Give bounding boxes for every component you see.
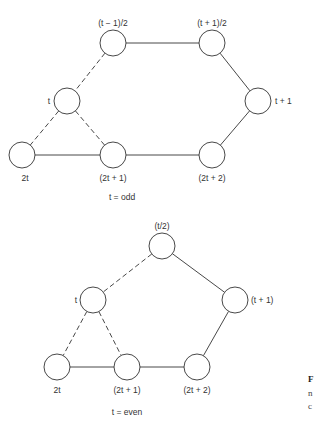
graph-node <box>9 142 35 168</box>
graph-node <box>54 88 80 114</box>
graph-node <box>199 142 225 168</box>
edge-solid <box>203 311 228 355</box>
node-label: 2t <box>53 385 61 395</box>
graph-node <box>114 354 140 380</box>
margin-caption-line-1: F <box>308 374 314 384</box>
node-label: t + 1 <box>275 96 292 106</box>
node-label: t <box>75 295 78 305</box>
margin-caption-line-2: n <box>308 388 313 398</box>
node-label: (t + 1) <box>251 295 274 305</box>
edge-solid <box>172 254 224 293</box>
graph-node <box>149 233 175 259</box>
graph-node <box>100 30 126 56</box>
margin-caption-line-3: c <box>308 401 312 411</box>
node-label: (t + 1)/2 <box>197 18 227 28</box>
node-label: (2t + 1) <box>99 173 126 183</box>
node-label: (2t + 2) <box>198 173 225 183</box>
graph-node <box>184 354 210 380</box>
diagram-caption: t = odd <box>109 192 136 202</box>
graph-node <box>245 88 271 114</box>
edge-solid <box>220 111 249 145</box>
margin-caption: F n c <box>308 374 314 411</box>
graph-node <box>44 354 70 380</box>
node-label: (t − 1)/2 <box>98 18 128 28</box>
node-label: (t/2) <box>154 221 169 231</box>
edge-solid <box>220 53 250 91</box>
node-label: (2t + 2) <box>183 385 210 395</box>
graph-node <box>222 287 248 313</box>
node-label: t <box>48 96 51 106</box>
edge-dashed <box>75 53 105 91</box>
graph-node <box>80 287 106 313</box>
edge-dashed <box>103 254 152 292</box>
graph-node <box>100 142 126 168</box>
node-label: 2t <box>21 173 29 183</box>
graph-diagram: (t − 1)/2(t + 1)/2tt + 12t(2t + 1)(2t + … <box>0 0 314 427</box>
nodes-layer <box>9 30 271 380</box>
graph-node <box>199 30 225 56</box>
node-label: (2t + 1) <box>113 385 140 395</box>
edge-dashed <box>63 311 87 355</box>
diagram-caption: t = even <box>112 407 143 417</box>
edge-dashed <box>99 312 121 356</box>
edge-dashed <box>30 111 58 145</box>
edge-dashed <box>75 111 104 145</box>
